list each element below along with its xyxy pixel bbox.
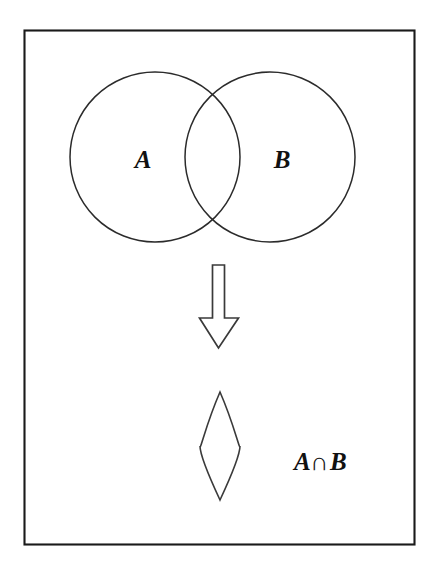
intersection-label-b: B: [329, 448, 347, 475]
label-set-a: A: [133, 146, 152, 173]
intersection-diagram: A B A ∩ B: [0, 0, 438, 571]
intersection-operator-icon: ∩: [310, 448, 328, 475]
intersection-label-a: A: [292, 448, 311, 475]
intersection-label-group: A ∩ B: [292, 448, 347, 475]
figure-container: A B A ∩ B: [0, 0, 438, 571]
label-set-b: B: [273, 146, 291, 173]
